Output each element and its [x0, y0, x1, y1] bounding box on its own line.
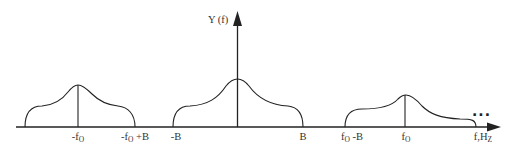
x-axis-unit-label: f,HZ [474, 131, 492, 146]
tick-label-neg-fo-plus-b: -fO +B [121, 131, 149, 146]
tick-label-neg-b: -B [171, 131, 182, 143]
amplitude-axis-arrowhead [233, 11, 242, 26]
tick-label-subscript: Z [488, 135, 493, 144]
spectrum-diagram [0, 0, 516, 150]
positive-carrier-lobe [345, 95, 476, 127]
tick-label-text: -f [72, 131, 79, 142]
tick-label-suffix: +B [133, 131, 149, 142]
tick-label-text: B [299, 131, 306, 142]
tick-label-text: f,H [474, 131, 488, 142]
negative-carrier-lobe [25, 85, 135, 127]
tick-label-fo-minus-b: fO -B [341, 131, 363, 146]
tick-label-fo: fO [402, 131, 411, 146]
tick-label-neg-fo: -fO [72, 131, 84, 146]
tick-label-pos-b: B [299, 131, 306, 143]
tick-label-text: -B [171, 131, 182, 142]
y-axis-label: Y (f) [208, 14, 228, 26]
tick-label-subscript: O [405, 135, 410, 144]
tick-label-text: -f [121, 131, 128, 142]
continuation-ellipsis: ... [472, 106, 491, 116]
tick-label-suffix: -B [350, 131, 363, 142]
tick-label-subscript: O [79, 135, 84, 144]
